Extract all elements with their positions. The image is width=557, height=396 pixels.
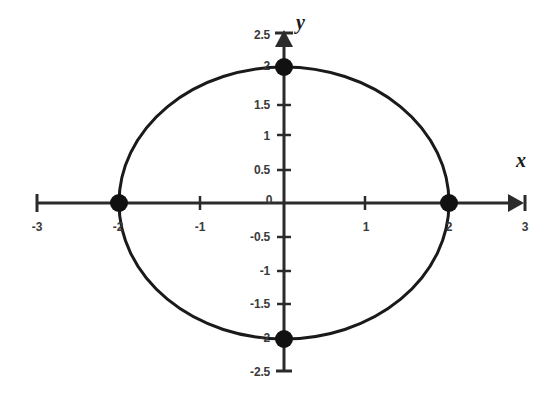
y-axis-label: y	[296, 12, 305, 32]
x-axis-label: x	[516, 150, 526, 170]
y-tick-label-2: 2	[264, 60, 270, 72]
x-tick-label--1: -1	[195, 221, 205, 233]
x-tick-label-0: 0	[266, 194, 272, 206]
y-tick-label-1.5: 1.5	[254, 99, 270, 111]
vertex-point-bottom	[275, 330, 293, 348]
x-tick-label-3: 3	[522, 221, 528, 233]
x-tick-label--2: -2	[113, 221, 123, 233]
x-axis-arrow-icon	[508, 194, 524, 212]
x-tick-label--3: -3	[32, 221, 42, 233]
coordinate-plane-svg	[0, 0, 557, 396]
x-tick-label-1: 1	[363, 221, 369, 233]
y-tick-label--2: -2	[260, 332, 270, 344]
y-tick-label-2.5: 2.5	[254, 29, 270, 41]
y-tick-label--1: -1	[260, 265, 270, 277]
y-tick-label--1.5: -1.5	[250, 298, 270, 310]
y-tick-label-1: 1	[264, 130, 270, 142]
vertex-point-right	[440, 194, 458, 212]
ellipse-graph-figure: x y -3 -2 -1 0 1 2 3 2.5 2 1.5 1 0.5 -0.…	[0, 0, 557, 396]
x-tick-label-2: 2	[446, 221, 452, 233]
y-tick-label-0.5: 0.5	[254, 164, 270, 176]
y-tick-label--0.5: -0.5	[250, 231, 270, 243]
vertex-point-top	[275, 58, 293, 76]
vertex-point-left	[110, 194, 128, 212]
y-tick-label--2.5: -2.5	[250, 366, 270, 378]
